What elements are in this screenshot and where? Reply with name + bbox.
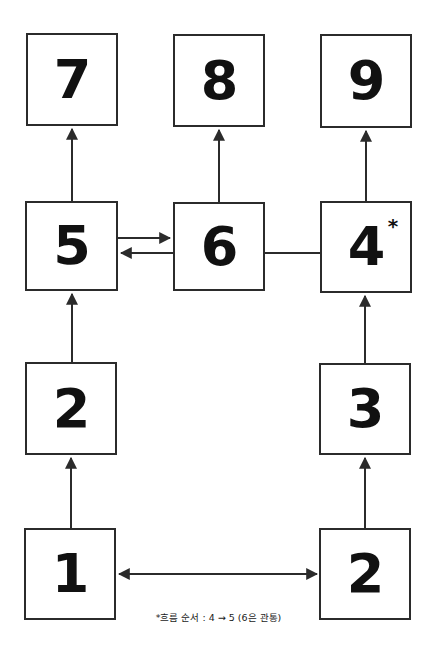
node-2-right[interactable]: 2 [319, 528, 411, 620]
node-5[interactable]: 5 [25, 201, 118, 291]
node-7[interactable]: 7 [26, 33, 118, 126]
node-6[interactable]: 6 [173, 202, 265, 291]
node-2-left-label: 2 [53, 382, 90, 436]
node-4-label: 4* [348, 220, 385, 274]
node-3-label: 3 [347, 382, 384, 436]
node-3[interactable]: 3 [319, 363, 411, 455]
node-9[interactable]: 9 [320, 34, 412, 128]
node-4-asterisk-marker: * [388, 216, 397, 236]
node-2-right-label: 2 [347, 547, 384, 601]
diagram-canvas: 7 8 9 5 6 4* 2 3 1 2 *흐름 순서 : 4 → 5 (6은 … [0, 0, 437, 654]
node-1-label: 1 [52, 547, 89, 601]
node-5-label: 5 [53, 219, 90, 273]
node-8-label: 8 [201, 54, 238, 108]
node-4-text: 4 [348, 215, 385, 278]
node-9-label: 9 [348, 54, 385, 108]
node-2-left[interactable]: 2 [25, 362, 117, 455]
node-4[interactable]: 4* [320, 201, 412, 293]
node-6-label: 6 [201, 220, 238, 274]
node-7-label: 7 [54, 53, 91, 107]
node-8[interactable]: 8 [173, 34, 265, 127]
footnote-flow-order: *흐름 순서 : 4 → 5 (6은 관통) [0, 610, 437, 624]
node-1[interactable]: 1 [24, 528, 116, 620]
